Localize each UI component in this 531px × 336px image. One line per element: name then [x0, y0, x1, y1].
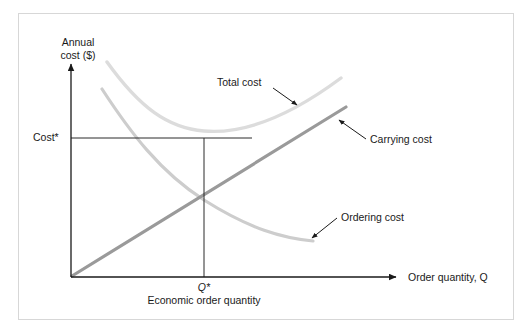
- total-cost-arrow: [273, 88, 297, 105]
- total-cost-label: Total cost: [217, 76, 261, 89]
- x-axis-title-text: Order quantity,: [408, 271, 477, 283]
- x-axis-title: Order quantity, Q: [408, 271, 488, 284]
- y-tick-label-cost-star: Cost*: [33, 131, 59, 144]
- figure-canvas: Annual cost ($) Cost* Q* Economic order …: [0, 0, 531, 336]
- total-cost-curve: [107, 62, 341, 131]
- ordering-cost-curve: [102, 89, 313, 241]
- y-axis-title-line2: cost ($): [44, 49, 112, 62]
- carrying-cost-label: Carrying cost: [370, 133, 432, 146]
- carrying-cost-arrow: [339, 120, 366, 139]
- y-axis-title-line1: Annual: [44, 36, 112, 49]
- x-tick-caption: Economic order quantity: [130, 294, 278, 307]
- y-axis-title: Annual cost ($): [44, 36, 112, 62]
- ordering-cost-arrow: [312, 218, 337, 238]
- x-tick-label-q-star: Q*: [184, 281, 224, 294]
- ordering-cost-label: Ordering cost: [341, 211, 404, 224]
- x-axis-title-symbol: Q: [480, 271, 488, 283]
